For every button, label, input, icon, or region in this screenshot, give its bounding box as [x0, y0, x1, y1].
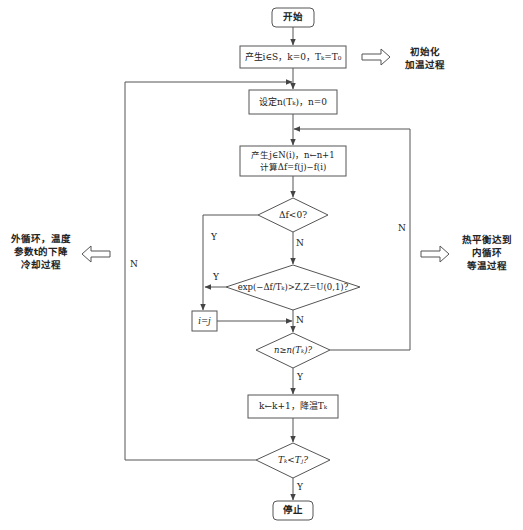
init-annotation: 初始化 加温过程	[395, 45, 455, 71]
outer-annotation-line2: 参数t的下降	[2, 245, 80, 258]
n-decision: n≥n(Tₖ)?	[256, 344, 330, 356]
start-node: 开始	[272, 11, 314, 23]
inner-annotation-line1: 热平衡达到	[452, 233, 522, 246]
delta-decision: Δf<0?	[258, 209, 328, 221]
cool-node: k←k+1，降温Tₖ	[248, 400, 338, 412]
generate-node-line2: 计算Δf=f(j)−f(i)	[240, 161, 346, 173]
inner-annotation: 热平衡达到 内循环 等温过程	[452, 233, 522, 272]
stop-node: 停止	[273, 504, 313, 516]
init-hollow-arrow-icon	[362, 49, 390, 65]
outer-hollow-arrow-icon	[82, 246, 110, 262]
set-n-node: 设定n(Tₖ)，n=0	[249, 96, 337, 108]
n-yes-label: Y	[297, 372, 303, 382]
exp-decision: exp(−Δf/Tₖ)>Z,Z=U(0,1)?	[226, 281, 360, 293]
delta-yes-label: Y	[211, 232, 217, 242]
inner-annotation-line2: 内循环	[452, 246, 522, 259]
outer-annotation-line3: 冷却过程	[2, 258, 80, 271]
t-no-label: N	[130, 259, 138, 269]
generate-node-line1: 产生j∈N(i)，n←n+1	[240, 149, 346, 161]
init-annotation-line1: 初始化	[395, 45, 455, 58]
inner-annotation-line3: 等温过程	[452, 259, 522, 272]
delta-no-label: N	[296, 238, 304, 248]
t-yes-label: Y	[297, 482, 303, 492]
outer-annotation: 外循环，温度 参数t的下降 冷却过程	[2, 232, 80, 271]
init-annotation-line2: 加温过程	[395, 58, 455, 71]
init-node: 产生i∈S，k=0，Tₖ=T₀	[240, 51, 346, 63]
exp-yes-label: Y	[213, 272, 219, 282]
t-decision: Tₖ<Tⱼ?	[256, 454, 330, 466]
assign-node: i=j	[192, 315, 217, 327]
outer-annotation-line1: 外循环，温度	[2, 232, 80, 245]
inner-hollow-arrow-icon	[421, 246, 449, 262]
exp-no-label: N	[296, 315, 304, 325]
n-no-label: N	[398, 223, 406, 233]
